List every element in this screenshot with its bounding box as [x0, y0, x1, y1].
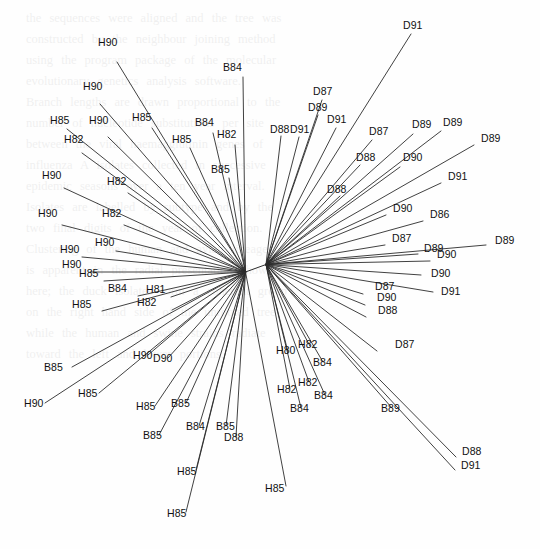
leaf-label: H85: [172, 134, 192, 145]
tree-branch: [266, 265, 290, 390]
leaf-label: D90: [393, 203, 413, 214]
tree-branch: [266, 265, 309, 383]
leaf-label: D86: [430, 209, 450, 220]
leaf-label: H90: [89, 115, 109, 126]
tree-branch: [266, 265, 421, 276]
leaf-label: H85: [78, 388, 98, 399]
leaf-label: H85: [132, 112, 152, 123]
leaf-label: D90: [431, 268, 451, 279]
leaf-label: H85: [177, 466, 197, 477]
leaf-label: D89: [308, 102, 328, 113]
leaf-label: B84: [314, 390, 333, 401]
tree-branch: [199, 272, 246, 426]
leaf-label: H85: [72, 299, 92, 310]
leaf-label: H90: [42, 170, 62, 181]
leaf-label: D89: [443, 117, 463, 128]
leaf-label: H82: [64, 134, 84, 145]
leaf-label: D89: [412, 119, 432, 130]
leaf-label: H82: [277, 384, 297, 395]
tree-branch: [82, 257, 246, 272]
tree-branch: [67, 129, 246, 272]
leaf-label: H85: [167, 508, 187, 519]
leaf-label: H90: [95, 237, 115, 248]
leaf-label: D87: [375, 281, 395, 292]
leaf-label: H85: [79, 268, 99, 279]
leaf-label: B84: [290, 403, 309, 414]
tree-branch: [266, 136, 281, 265]
leaf-label: D87: [395, 339, 415, 350]
leaf-label: B85: [44, 362, 63, 373]
leaf-label: H82: [137, 297, 157, 308]
tree-branch: [213, 133, 246, 272]
leaf-label: B85: [171, 398, 190, 409]
leaf-label: D87: [313, 86, 333, 97]
leaf-label: H82: [298, 377, 318, 388]
leaf-label: H82: [298, 339, 318, 350]
leaf-label: D88: [356, 152, 376, 163]
leaf-label: H82: [107, 176, 127, 187]
leaf-label: D91: [461, 460, 481, 471]
leaf-label: B89: [381, 403, 400, 414]
leaf-label: H90: [60, 244, 80, 255]
leaf-label: B84: [108, 283, 127, 294]
phylogenetic-tree-figure: the sequences were aligned and the tree …: [0, 0, 540, 549]
leaf-label: H85: [50, 115, 70, 126]
leaf-label: D91: [448, 171, 468, 182]
leaf-label: D90: [153, 353, 173, 364]
leaf-label: D88: [378, 305, 398, 316]
leaf-label: H90: [24, 398, 44, 409]
leaf-label: H81: [146, 284, 166, 295]
leaf-label: B84: [186, 421, 205, 432]
leaf-label: D88: [462, 446, 482, 457]
tree-branch: [266, 115, 318, 265]
leaf-label: D91: [403, 20, 423, 31]
leaf-label: D89: [481, 133, 501, 144]
leaf-label: D87: [392, 233, 412, 244]
leaf-label: H85: [265, 483, 285, 494]
tree-branch: [266, 265, 433, 293]
leaf-label: D89: [424, 243, 444, 254]
tree-branch: [226, 272, 246, 426]
leaf-label: B85: [211, 164, 230, 175]
leaf-label: H90: [98, 37, 118, 48]
leaf-label: B84: [313, 357, 332, 368]
leaf-label: D91: [441, 286, 461, 297]
tree-branch: [236, 272, 246, 437]
leaf-label: B84: [223, 62, 242, 73]
leaf-label: D91: [327, 114, 347, 125]
internal-branch: [246, 265, 267, 273]
leaf-label: B84: [195, 117, 214, 128]
leaf-label: D90: [377, 292, 397, 303]
leaf-label: H82: [102, 208, 122, 219]
leaf-label: H90: [83, 81, 103, 92]
tree-branch: [266, 265, 377, 352]
leaf-label: D88: [270, 124, 290, 135]
leaf-label: D89: [495, 235, 515, 246]
leaf-label: H82: [217, 129, 237, 140]
tree-branch: [266, 167, 400, 265]
leaf-label: H90: [38, 208, 58, 219]
leaf-label: H90: [133, 350, 153, 361]
leaf-label: D88: [327, 184, 347, 195]
leaf-label: D87: [369, 126, 389, 137]
tree-branch: [266, 165, 360, 265]
tree-branch: [246, 272, 287, 486]
tree-branch: [266, 265, 455, 471]
tree-branch: [108, 137, 246, 272]
leaf-label: B85: [216, 421, 235, 432]
tree-branch: [155, 272, 246, 406]
leaf-label: D88: [224, 432, 244, 443]
leaf-label: B85: [143, 430, 162, 441]
leaf-label: H85: [136, 401, 156, 412]
leaf-label: D90: [403, 152, 423, 163]
leaf-label: H80: [276, 345, 296, 356]
tree-branch: [62, 225, 246, 272]
leaf-label: D91: [290, 124, 310, 135]
branch-group: [45, 34, 486, 512]
